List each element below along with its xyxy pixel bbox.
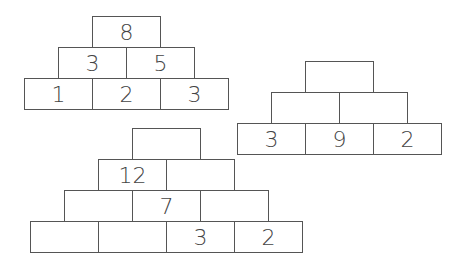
number-brick: 3 (160, 78, 229, 110)
empty-brick (305, 61, 374, 93)
empty-brick (98, 221, 167, 253)
number-brick: 3 (166, 221, 235, 253)
number-brick: 1 (24, 78, 93, 110)
number-brick: 2 (92, 78, 161, 110)
empty-brick (30, 221, 99, 253)
number-brick: 3 (237, 123, 306, 155)
empty-brick (132, 128, 201, 160)
number-brick: 9 (305, 123, 374, 155)
empty-brick (200, 190, 269, 222)
empty-brick (271, 92, 340, 124)
number-brick: 7 (132, 190, 201, 222)
number-brick: 2 (234, 221, 303, 253)
number-brick: 5 (126, 47, 195, 79)
number-brick: 12 (98, 159, 167, 191)
empty-brick (166, 159, 235, 191)
empty-brick (339, 92, 408, 124)
number-brick: 3 (58, 47, 127, 79)
number-brick: 2 (373, 123, 442, 155)
number-brick: 8 (92, 16, 161, 48)
empty-brick (64, 190, 133, 222)
